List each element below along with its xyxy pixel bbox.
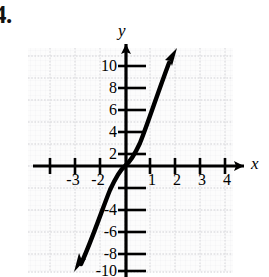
- x-tick-label: -2: [91, 172, 104, 188]
- x-tick-label: -3: [66, 172, 79, 188]
- y-tick-label: 8: [109, 80, 117, 96]
- y-tick-label: -4: [104, 202, 117, 218]
- coordinate-plane: [0, 0, 269, 277]
- x-tick-label: 2: [173, 172, 181, 188]
- y-tick-label: 2: [109, 146, 117, 162]
- problem-number-label: 4.: [0, 2, 12, 27]
- y-tick-label: 6: [109, 102, 117, 118]
- x-axis-label: x: [251, 155, 259, 172]
- x-tick-label: 3: [198, 172, 206, 188]
- y-tick-label: -6: [104, 224, 117, 240]
- y-tick-label: -8: [104, 246, 117, 262]
- y-tick-label: -10: [96, 263, 117, 277]
- x-tick-label: 1: [148, 172, 156, 188]
- y-tick-label: 4: [109, 124, 117, 140]
- x-tick-label: 4: [223, 172, 231, 188]
- graph-figure: 4.: [0, 0, 269, 277]
- y-tick-label: 10: [101, 58, 117, 74]
- y-axis-label: y: [118, 22, 126, 39]
